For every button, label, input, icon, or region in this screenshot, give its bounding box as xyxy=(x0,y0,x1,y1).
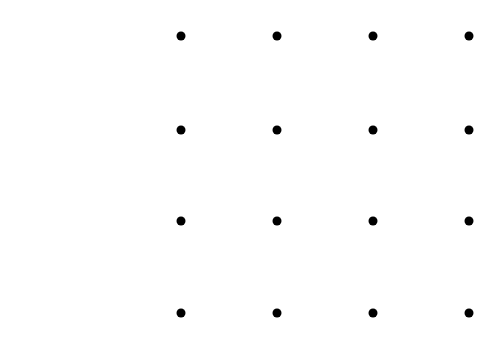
grid-dot-r2-c3 xyxy=(369,126,378,135)
grid-dot-r3-c3 xyxy=(369,217,378,226)
grid-dot-r1-c2 xyxy=(273,32,282,41)
grid-dot-r2-c1 xyxy=(177,126,186,135)
grid-dot-r1-c4 xyxy=(465,32,474,41)
dot-grid-diagram xyxy=(0,0,501,362)
grid-dot-r1-c1 xyxy=(177,32,186,41)
grid-dot-r4-c3 xyxy=(369,309,378,318)
grid-dot-r3-c1 xyxy=(177,217,186,226)
grid-dot-r2-c4 xyxy=(465,126,474,135)
grid-dot-r2-c2 xyxy=(273,126,282,135)
grid-dot-r4-c2 xyxy=(273,309,282,318)
grid-dot-r4-c4 xyxy=(465,309,474,318)
grid-dot-r1-c3 xyxy=(369,32,378,41)
grid-dot-r4-c1 xyxy=(177,309,186,318)
grid-dot-r3-c4 xyxy=(465,217,474,226)
grid-dot-r3-c2 xyxy=(273,217,282,226)
